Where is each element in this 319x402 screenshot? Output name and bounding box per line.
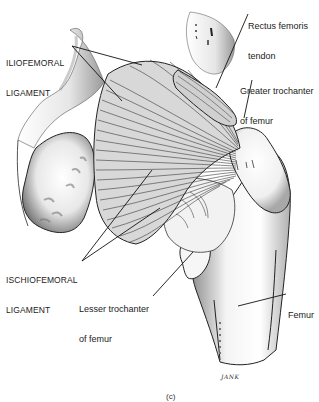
- label-line: Rectus femoris: [248, 21, 308, 31]
- figure-caption: (c): [166, 392, 175, 401]
- label-femur: Femur: [288, 290, 314, 340]
- label-line: of femur: [240, 116, 314, 126]
- label-greater-trochanter: Greater trochanter of femur: [240, 66, 314, 146]
- label-line: Lesser trochanter: [79, 304, 149, 314]
- label-line: Greater trochanter: [240, 86, 314, 96]
- label-line: ISCHIOFEMORAL: [6, 275, 78, 285]
- label-line: Femur: [288, 310, 314, 320]
- artist-signature: JANK: [221, 373, 239, 380]
- label-line: ILIOFEMORAL: [6, 58, 64, 68]
- label-ischiofemoral-ligament: ISCHIOFEMORAL LIGAMENT: [6, 255, 78, 335]
- label-line: tendon: [248, 51, 308, 61]
- label-iliofemoral-ligament: ILIOFEMORAL LIGAMENT: [6, 38, 64, 118]
- hip-ligament-figure: ILIOFEMORAL LIGAMENT ISCHIOFEMORAL LIGAM…: [0, 0, 319, 402]
- label-line: of femur: [79, 334, 149, 344]
- pubic-bone: [17, 133, 95, 233]
- label-line: LIGAMENT: [6, 305, 78, 315]
- label-line: LIGAMENT: [6, 88, 64, 98]
- pelvis-upper-bone: [186, 12, 234, 74]
- label-lesser-trochanter: Lesser trochanter of femur: [79, 284, 149, 364]
